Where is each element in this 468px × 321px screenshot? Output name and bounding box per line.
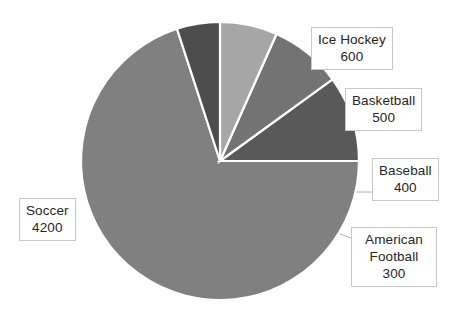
data-label-category-line2: Football [358,248,430,265]
data-label-basketball: Basketball 500 [345,88,422,131]
data-label-category: Soccer [26,202,69,219]
data-label-baseball: Baseball 400 [372,158,439,201]
data-label-value: 600 [318,48,386,65]
data-label-value: 500 [352,109,415,126]
data-label-value: 300 [358,265,430,282]
data-label-value: 4200 [26,219,69,236]
data-label-soccer: Soccer 4200 [19,198,76,241]
data-label-ice-hockey: Ice Hockey 600 [311,27,393,70]
data-label-category: Baseball [379,162,432,179]
data-label-category: American [358,231,430,248]
data-label-american-football: American Football 300 [351,227,437,287]
data-label-category: Basketball [352,92,415,109]
data-label-category: Ice Hockey [318,31,386,48]
pie-chart: Ice Hockey 600 Basketball 500 Baseball 4… [0,0,468,321]
data-label-value: 400 [379,179,432,196]
